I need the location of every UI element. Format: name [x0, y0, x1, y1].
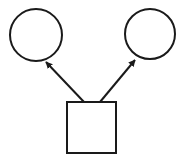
- arrow-left-circle: [46, 62, 84, 102]
- right-circle-node: [125, 9, 175, 59]
- diagram-canvas: [0, 0, 186, 161]
- arrow-right-circle: [100, 60, 135, 102]
- nodes-group: [10, 9, 175, 153]
- left-circle-node: [10, 9, 62, 61]
- edges-group: [46, 60, 135, 102]
- square-node: [67, 102, 116, 153]
